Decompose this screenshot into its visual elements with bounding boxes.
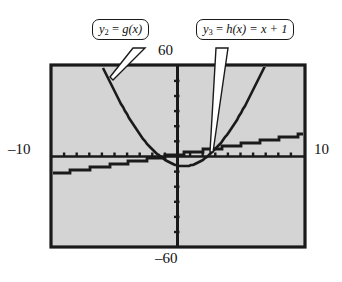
callout-h-subscript: 3 bbox=[209, 27, 213, 37]
callout-h-function: y3 = h(x) = x + 1 bbox=[196, 19, 294, 40]
callout-g-equals: = bbox=[109, 22, 122, 36]
callout-h-equals: = bbox=[213, 22, 226, 36]
callout-h-expression: h(x) = x + 1 bbox=[226, 22, 287, 36]
callout-g-var: y bbox=[99, 22, 105, 36]
y-min-label: –60 bbox=[155, 250, 178, 267]
callout-g-subscript: 2 bbox=[105, 27, 109, 37]
x-min-label: –10 bbox=[8, 141, 31, 158]
graphing-calculator-figure: 60 –60 –10 10 y2 = g(x) y3 = h(x) = x + … bbox=[0, 0, 342, 282]
callout-g-function: y2 = g(x) bbox=[92, 19, 149, 40]
x-max-label: 10 bbox=[314, 141, 329, 158]
callout-g-expression: g(x) bbox=[122, 22, 142, 36]
y-max-label: 60 bbox=[158, 42, 173, 59]
callout-h-var: y bbox=[203, 22, 209, 36]
